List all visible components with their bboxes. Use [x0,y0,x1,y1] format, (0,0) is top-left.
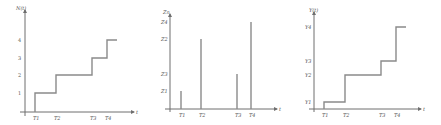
y-tick-z4: Z4 [160,19,168,25]
y-tick-y3: Y3 [305,58,311,64]
step-line [35,40,117,112]
y-axis-label: Zn [162,9,170,15]
y-tick-y2: Y2 [305,72,311,78]
chart-compound-process: Y(t) t Y4 Y3 Y2 Y1 T1 T2 T3 T4 [305,7,426,118]
chart-counting-process: N(t) t 4 3 2 1 T1 T2 T3 T4 [15,5,139,121]
x-axis-label: t [136,109,139,115]
x-tick-t4: T4 [105,115,112,121]
y-tick-y1: Y1 [305,99,311,105]
y-tick-z2: Z2 [160,36,168,42]
y-axis-label: N(t) [15,5,26,11]
x-axis-label: t [423,106,426,112]
y-tick-2: 2 [18,72,21,78]
x-tick-t2: T2 [54,115,61,121]
y-tick-1: 1 [18,90,21,96]
x-tick-t1: T1 [179,112,186,118]
y-tick-4: 4 [18,37,21,43]
x-tick-t3: T3 [90,115,97,121]
x-tick-t1: T1 [322,112,329,118]
x-tick-t4: T4 [394,112,401,118]
x-tick-t4: T4 [249,112,256,118]
x-tick-t3: T3 [379,112,386,118]
y-tick-3: 3 [18,55,21,61]
y-tick-y4: Y4 [305,24,311,30]
y-axis-label: Y(t) [309,7,318,13]
x-tick-t3: T3 [235,112,242,118]
chart-impulses: Zn t Z4 Z2 Z3 Z1 T1 T2 T3 T4 [160,9,282,118]
x-tick-t2: T2 [343,112,350,118]
y-tick-z1: Z1 [160,88,168,94]
y-tick-z3: Z3 [160,71,168,77]
x-axis-label: t [279,106,282,112]
x-tick-t1: T1 [33,115,40,121]
x-tick-t2: T2 [199,112,206,118]
figure: N(t) t 4 3 2 1 T1 T2 T3 T4 Zn t Z4 Z2 Z3… [0,0,441,125]
step-line [324,27,406,109]
